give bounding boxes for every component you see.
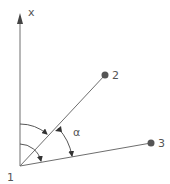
point-3 — [148, 140, 155, 147]
x-axis-label: x — [28, 6, 35, 19]
angle-arc-axis-to-2 — [20, 124, 47, 134]
segment-1-2 — [20, 75, 105, 166]
angle-alpha-label: α — [73, 126, 80, 139]
point-3-label: 3 — [158, 137, 165, 150]
segment-1-3 — [20, 143, 151, 166]
angle-diagram: x α 1 2 3 — [0, 0, 170, 184]
point-2 — [102, 72, 109, 79]
point-2-label: 2 — [112, 69, 119, 82]
angle-arc-alpha — [58, 128, 72, 156]
x-axis-arrow-icon — [17, 13, 23, 24]
point-1-label: 1 — [7, 171, 14, 184]
